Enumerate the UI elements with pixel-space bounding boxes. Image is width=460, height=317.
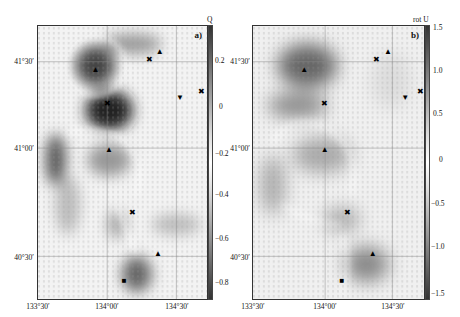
- q-field-heatmap: [38, 26, 207, 299]
- marker-x-icon: ✖: [198, 88, 205, 96]
- y-tick-label: 41°30′: [0, 57, 34, 66]
- marker-x-icon: ✖: [129, 209, 136, 217]
- marker-x-icon: ✖: [146, 56, 153, 64]
- panel-b-map: b) ▲✖▲▼✖✖▲✖▲■: [252, 25, 425, 300]
- panel-a-label: a): [195, 30, 203, 40]
- colorbar-q: [208, 25, 213, 300]
- colorbar-rot-u-title: rot U: [413, 15, 429, 24]
- marker-x-icon: ✖: [321, 100, 328, 108]
- x-tick-label: 133°30′: [26, 302, 49, 311]
- marker-triangle-up-icon: ▲: [384, 48, 392, 56]
- colorbar-rot-u-tick: −0.5: [431, 200, 445, 208]
- marker-triangle-up-icon: ▲: [91, 66, 99, 74]
- colorbar-rot-u-tick: 0.5: [433, 110, 442, 118]
- marker-x-icon: ✖: [104, 100, 111, 108]
- x-tick-label: 133°30′: [241, 302, 264, 311]
- colorbar-q-tick: −0.4: [215, 191, 229, 199]
- x-tick-label: 134°30′: [381, 302, 404, 311]
- marker-square-icon: ■: [122, 277, 127, 285]
- marker-triangle-up-icon: ▲: [300, 66, 308, 74]
- colorbar-rot-u-tick: 0: [439, 156, 443, 164]
- panel-b-label: b): [411, 30, 419, 40]
- colorbar-rot-u: [425, 25, 430, 300]
- marker-x-icon: ✖: [344, 209, 351, 217]
- marker-triangle-up-icon: ▲: [321, 146, 329, 154]
- colorbar-q-title: Q: [207, 15, 212, 24]
- colorbar-q-tick: −0.8: [215, 279, 229, 287]
- marker-triangle-down-icon: ▼: [176, 94, 184, 102]
- colorbar-q-tick: −0.6: [215, 235, 229, 243]
- y-tick-label: 41°30′: [216, 57, 250, 66]
- colorbar-rot-u-tick: −1.5: [431, 290, 445, 298]
- marker-triangle-up-icon: ▲: [105, 146, 113, 154]
- marker-triangle-up-icon: ▲: [369, 250, 377, 258]
- colorbar-q-tick: 0: [219, 103, 223, 111]
- marker-triangle-up-icon: ▲: [156, 48, 164, 56]
- y-tick-label: 41°00′: [216, 144, 250, 153]
- marker-triangle-down-icon: ▼: [401, 94, 409, 102]
- x-tick-label: 134°30′: [165, 302, 188, 311]
- panel-a-map: a) ▲✖▲▼✖✖▲✖▲■: [37, 25, 208, 300]
- marker-triangle-up-icon: ▲: [154, 250, 162, 258]
- marker-x-icon: ✖: [373, 56, 380, 64]
- x-tick-label: 134°00′: [313, 302, 336, 311]
- y-tick-label: 40°30′: [216, 253, 250, 262]
- marker-x-icon: ✖: [417, 88, 424, 96]
- colorbar-rot-u-tick: 1.0: [433, 67, 442, 75]
- x-tick-label: 134°00′: [95, 302, 118, 311]
- marker-square-icon: ■: [339, 277, 344, 285]
- colorbar-rot-u-tick: −1.0: [431, 243, 445, 251]
- y-tick-label: 40°30′: [0, 253, 34, 262]
- colorbar-rot-u-tick: 1.5: [433, 24, 442, 32]
- y-tick-label: 41°00′: [0, 144, 34, 153]
- rot-u-field-heatmap: [253, 26, 424, 299]
